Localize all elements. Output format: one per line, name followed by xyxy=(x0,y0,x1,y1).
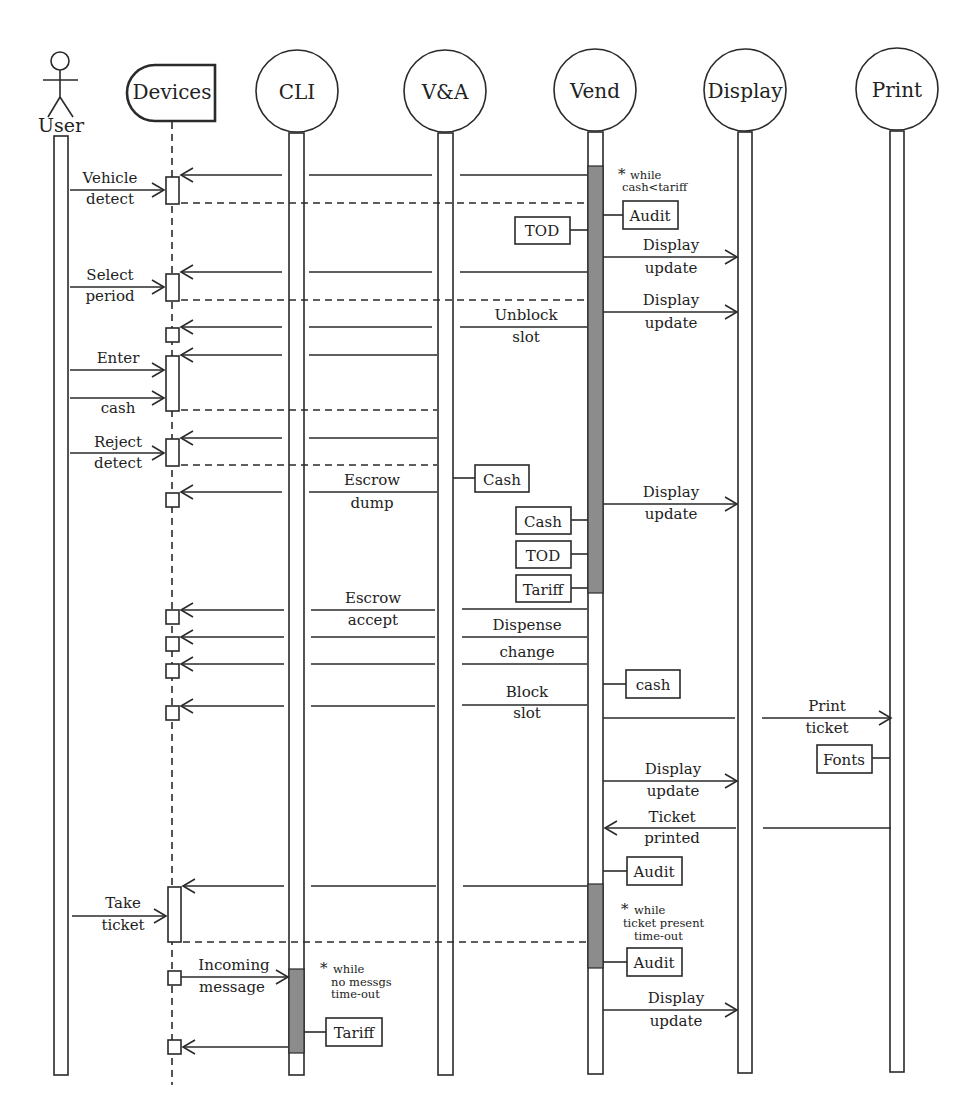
svg-text:message: message xyxy=(199,978,265,996)
svg-text:while: while xyxy=(634,903,666,917)
svg-text:cash<tariff: cash<tariff xyxy=(622,180,688,194)
message-take-ticket: Take ticket xyxy=(72,894,166,934)
svg-text:Display: Display xyxy=(643,291,700,309)
svg-text:Audit: Audit xyxy=(633,954,675,972)
message-display-update-4: Display update xyxy=(603,760,737,800)
sequence-diagram: User Devices CLI V&A Vend Display Print xyxy=(0,0,974,1113)
svg-text:Print: Print xyxy=(808,697,846,715)
svg-text:Block: Block xyxy=(506,683,549,701)
lifeline-print xyxy=(890,131,904,1072)
message-display-update-5: Display update xyxy=(603,989,737,1030)
message-display-update-1: Display update xyxy=(603,236,737,277)
devices-activation xyxy=(166,493,179,507)
svg-text:Enter: Enter xyxy=(97,349,141,367)
message-va-to-devices xyxy=(181,348,437,362)
svg-text:update: update xyxy=(645,314,698,332)
svg-text:Display: Display xyxy=(643,236,700,254)
participant-label-vend: Vend xyxy=(569,79,620,103)
data-store-tariff-cli: Tariff xyxy=(304,1018,382,1046)
svg-text:Unblock: Unblock xyxy=(494,306,558,324)
svg-text:ticket: ticket xyxy=(805,719,848,737)
svg-text:cash: cash xyxy=(636,676,671,694)
svg-text:period: period xyxy=(85,287,134,305)
svg-text:Display: Display xyxy=(643,483,700,501)
actor-icon xyxy=(43,52,78,117)
participant-label-print: Print xyxy=(872,78,922,102)
participant-label-va: V&A xyxy=(421,80,469,104)
lifeline-va xyxy=(438,133,453,1075)
devices-activation xyxy=(168,1040,181,1054)
cli-activation-message-loop xyxy=(289,969,304,1053)
devices-activation xyxy=(166,664,179,678)
participant-label-cli: CLI xyxy=(279,80,315,104)
svg-text:TOD: TOD xyxy=(525,222,559,240)
loop-note-messages: * while no messgs time-out xyxy=(320,959,392,1001)
svg-text:TOD: TOD xyxy=(526,547,560,565)
lifeline-user xyxy=(54,136,68,1075)
message-enter-cash: Enter cash xyxy=(70,349,164,417)
message-va-to-devices xyxy=(181,431,437,445)
svg-text:Audit: Audit xyxy=(629,207,671,225)
svg-text:update: update xyxy=(647,782,700,800)
devices-activation xyxy=(166,274,179,301)
vend-activation-cash-loop xyxy=(588,166,603,593)
svg-text:ticket present: ticket present xyxy=(623,916,705,930)
svg-text:Escrow: Escrow xyxy=(345,589,401,607)
svg-text:accept: accept xyxy=(348,611,398,629)
data-store-audit-3: Audit xyxy=(603,948,682,976)
svg-text:*: * xyxy=(320,959,328,977)
lifeline-display xyxy=(738,132,752,1073)
devices-activation xyxy=(166,610,179,624)
svg-text:update: update xyxy=(645,259,698,277)
participant-print: Print xyxy=(856,48,938,1072)
data-store-tod-2: TOD xyxy=(516,541,588,568)
message-vend-to-devices xyxy=(181,168,587,182)
message-incoming-message: Incoming message xyxy=(181,956,288,996)
svg-text:update: update xyxy=(645,505,698,523)
devices-activation xyxy=(166,177,179,204)
data-store-audit-2: Audit xyxy=(603,857,682,885)
data-store-cash-vend: Cash xyxy=(516,507,588,534)
svg-text:slot: slot xyxy=(512,328,540,346)
message-display-update-3: Display update xyxy=(603,483,737,523)
data-store-tod: TOD xyxy=(515,217,588,244)
lifeline-cli xyxy=(289,133,304,1075)
svg-text:detect: detect xyxy=(86,190,134,208)
svg-text:Incoming: Incoming xyxy=(198,956,270,974)
message-reject-detect: Reject detect xyxy=(70,433,164,472)
svg-text:Dispense: Dispense xyxy=(492,616,561,634)
message-vehicle-detect: Vehicle detect xyxy=(70,169,164,208)
svg-text:Escrow: Escrow xyxy=(344,471,400,489)
message-select-period: Select period xyxy=(70,266,164,305)
svg-text:while: while xyxy=(333,962,365,976)
svg-text:Audit: Audit xyxy=(633,863,675,881)
svg-text:Tariff: Tariff xyxy=(523,581,565,599)
svg-text:detect: detect xyxy=(94,454,142,472)
svg-text:Fonts: Fonts xyxy=(823,751,865,769)
svg-text:Display: Display xyxy=(648,989,705,1007)
svg-text:ticket: ticket xyxy=(101,916,144,934)
message-escrow-dump: Escrow dump xyxy=(181,471,437,512)
devices-activation xyxy=(168,887,181,942)
participant-user: User xyxy=(38,52,85,1075)
message-unblock-slot: Unblock slot xyxy=(181,306,587,346)
devices-activation xyxy=(166,328,179,342)
devices-activation xyxy=(166,356,179,411)
svg-text:time-out: time-out xyxy=(634,929,683,943)
svg-text:cash: cash xyxy=(101,399,136,417)
participant-label-devices: Devices xyxy=(133,80,212,104)
message-vend-to-devices xyxy=(183,879,587,893)
svg-text:Display: Display xyxy=(645,760,702,778)
svg-text:change: change xyxy=(499,643,554,661)
message-cli-to-devices xyxy=(183,1040,288,1054)
participant-label-user: User xyxy=(38,114,85,136)
message-display-update-2: Display update xyxy=(603,291,737,332)
data-store-cash-lower: cash xyxy=(603,670,680,698)
data-store-cash-va: Cash xyxy=(453,465,529,492)
svg-text:Reject: Reject xyxy=(94,433,142,451)
vend-activation-ticket-loop xyxy=(588,884,603,968)
devices-activation xyxy=(168,971,181,985)
message-block-slot: Block slot xyxy=(181,683,587,722)
devices-activation xyxy=(166,637,179,651)
data-store-tariff-vend: Tariff xyxy=(516,575,588,602)
